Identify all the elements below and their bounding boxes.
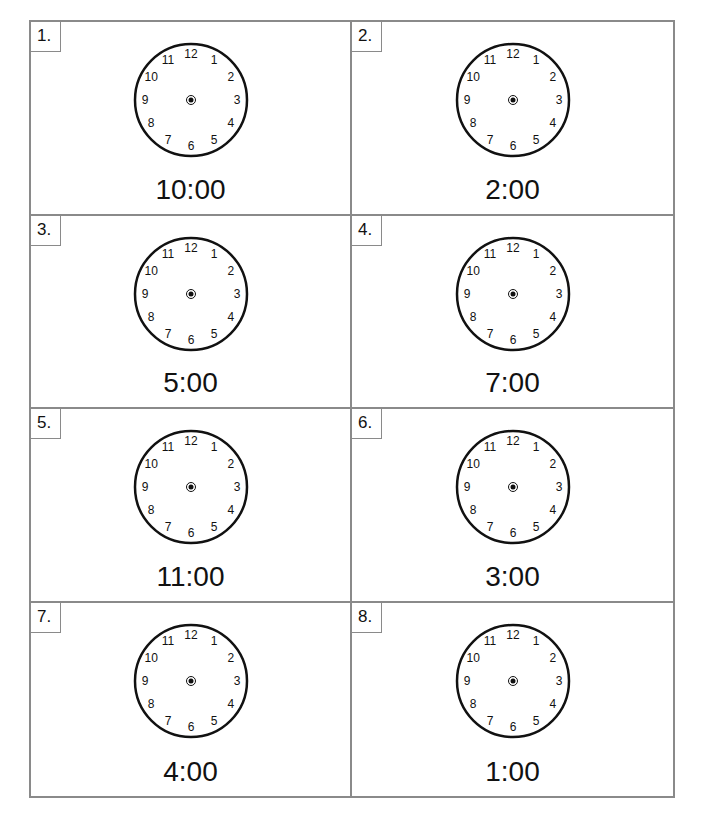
worksheet-item: 1. 121234567891011 10:00: [31, 22, 352, 216]
clock-numeral: 12: [506, 434, 520, 448]
clock-numeral: 12: [184, 434, 198, 448]
clock-face-icon: 121234567891011: [131, 234, 251, 354]
clock-numeral: 5: [532, 326, 539, 340]
clock-face-icon: 121234567891011: [453, 427, 573, 547]
clock-numeral: 2: [549, 264, 556, 278]
clock-numeral: 9: [141, 93, 148, 107]
clock-numeral: 6: [187, 720, 194, 734]
clock-numeral: 10: [144, 70, 158, 84]
time-label: 11:00: [31, 561, 350, 593]
clock-numeral: 4: [227, 697, 234, 711]
clock-center-dot: [188, 678, 193, 683]
clock-center-dot: [188, 291, 193, 296]
clock-face-icon: 121234567891011: [131, 621, 251, 741]
time-label: 10:00: [31, 174, 350, 206]
clock-numeral: 7: [164, 520, 171, 534]
clock-numeral: 9: [141, 674, 148, 688]
clock-numeral: 6: [509, 526, 516, 540]
clock-numeral: 12: [506, 241, 520, 255]
clock-center-dot: [510, 485, 515, 490]
clock-numeral: 8: [469, 116, 476, 130]
clock-numeral: 3: [555, 674, 562, 688]
item-number: 2.: [352, 22, 382, 52]
clock-center-dot: [510, 98, 515, 103]
clock-numeral: 3: [555, 287, 562, 301]
clock-center-dot: [188, 98, 193, 103]
worksheet-item: 6. 121234567891011 3:00: [352, 409, 673, 603]
clock-numeral: 5: [210, 520, 217, 534]
worksheet-item: 7. 121234567891011 4:00: [31, 603, 352, 797]
clock-numeral: 8: [147, 503, 154, 517]
clock-numeral: 8: [147, 697, 154, 711]
clock-numeral: 3: [555, 93, 562, 107]
clock-numeral: 9: [141, 480, 148, 494]
clock-numeral: 7: [486, 326, 493, 340]
clock-numeral: 3: [233, 480, 240, 494]
clock-face-icon: 121234567891011: [453, 621, 573, 741]
clock-numeral: 4: [549, 310, 556, 324]
clock-numeral: 7: [486, 520, 493, 534]
clock-numeral: 7: [486, 133, 493, 147]
clock-numeral: 7: [164, 133, 171, 147]
clock-numeral: 7: [164, 713, 171, 727]
clock-numeral: 7: [486, 713, 493, 727]
clock-numeral: 8: [147, 310, 154, 324]
clock-numeral: 9: [463, 287, 470, 301]
clock-numeral: 6: [509, 139, 516, 153]
worksheet-item: 2. 121234567891011 2:00: [352, 22, 673, 216]
clock-numeral: 9: [463, 674, 470, 688]
clock-numeral: 11: [161, 634, 174, 648]
clock-numeral: 4: [227, 503, 234, 517]
clock-numeral: 1: [532, 53, 539, 67]
clock-numeral: 1: [532, 440, 539, 454]
clock-numeral: 3: [233, 93, 240, 107]
clock-numeral: 1: [210, 634, 217, 648]
clock-face-icon: 121234567891011: [453, 234, 573, 354]
clock-numeral: 6: [187, 526, 194, 540]
clock-face-icon: 121234567891011: [131, 427, 251, 547]
time-label: 5:00: [31, 367, 350, 399]
clock-numeral: 5: [210, 133, 217, 147]
clock-numeral: 6: [187, 139, 194, 153]
clock-numeral: 10: [466, 264, 480, 278]
clock-numeral: 2: [227, 651, 234, 665]
clock-numeral: 11: [161, 53, 174, 67]
worksheet-item: 4. 121234567891011 7:00: [352, 216, 673, 410]
clock-numeral: 5: [210, 326, 217, 340]
clock-numeral: 8: [469, 310, 476, 324]
clock-numeral: 12: [184, 241, 198, 255]
time-label: 4:00: [31, 756, 350, 788]
clock-numeral: 11: [483, 247, 496, 261]
clock-numeral: 2: [227, 457, 234, 471]
time-label: 7:00: [352, 367, 673, 399]
clock-numeral: 8: [469, 697, 476, 711]
clock-center-dot: [510, 291, 515, 296]
item-number: 6.: [352, 409, 382, 439]
clock-center-dot: [188, 485, 193, 490]
clock-numeral: 12: [184, 47, 198, 61]
item-number: 7.: [31, 603, 61, 633]
clock-numeral: 9: [141, 287, 148, 301]
clock-numeral: 10: [466, 70, 480, 84]
clock-numeral: 1: [210, 53, 217, 67]
clock-numeral: 10: [466, 457, 480, 471]
clock-numeral: 9: [463, 93, 470, 107]
clock-numeral: 4: [549, 697, 556, 711]
clock-center-dot: [510, 678, 515, 683]
clock-numeral: 3: [233, 674, 240, 688]
clock-numeral: 2: [549, 457, 556, 471]
clock-numeral: 12: [506, 628, 520, 642]
clock-numeral: 6: [187, 333, 194, 347]
worksheet-item: 5. 121234567891011 11:00: [31, 409, 352, 603]
clock-numeral: 1: [210, 440, 217, 454]
clock-numeral: 2: [227, 70, 234, 84]
item-number: 1.: [31, 22, 61, 52]
clock-numeral: 11: [483, 53, 496, 67]
clock-numeral: 12: [506, 47, 520, 61]
clock-numeral: 2: [549, 70, 556, 84]
clock-numeral: 11: [483, 634, 496, 648]
time-label: 2:00: [352, 174, 673, 206]
clock-face-icon: 121234567891011: [453, 40, 573, 160]
clock-numeral: 10: [144, 457, 158, 471]
clock-numeral: 11: [483, 440, 496, 454]
